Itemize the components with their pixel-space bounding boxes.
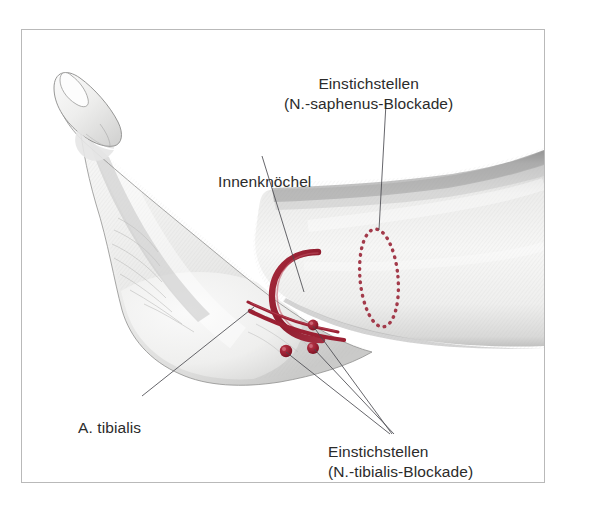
big-toe-shape <box>54 73 121 148</box>
leader-line-dot-3 <box>314 349 394 434</box>
label-innenknoechel-line1: Innenknöchel <box>218 173 311 190</box>
label-a-tibialis: A. tibialis <box>78 418 141 438</box>
label-saphenus-line1: Einstichstellen <box>318 75 419 92</box>
label-saphenus-line2: (N.-saphenus-Blockade) <box>284 94 453 114</box>
figure-root: Einstichstellen (N.-saphenus-Blockade) I… <box>0 0 591 510</box>
label-a-tibialis-line1: A. tibialis <box>78 419 141 436</box>
figure-caption <box>26 494 566 508</box>
anatomical-illustration <box>22 30 544 482</box>
label-innenknoechel: Innenknöchel <box>218 172 311 192</box>
label-tibialis-line1: Einstichstellen <box>328 443 429 460</box>
leader-line-dot-1 <box>313 326 392 434</box>
label-tibialis-line2: (N.-tibialis-Blockade) <box>328 462 473 482</box>
label-einstichstellen-tibialis: Einstichstellen (N.-tibialis-Blockade) <box>328 442 473 482</box>
illustration-frame: Einstichstellen (N.-saphenus-Blockade) I… <box>21 29 545 483</box>
label-einstichstellen-saphenus: Einstichstellen (N.-saphenus-Blockade) <box>284 74 453 114</box>
